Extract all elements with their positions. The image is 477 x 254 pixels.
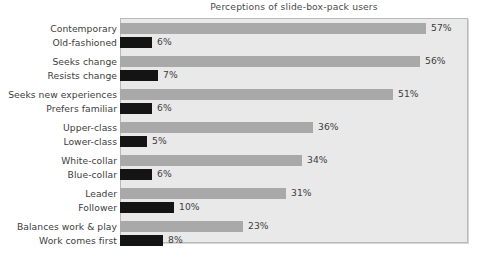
bar-value-label: 51% bbox=[398, 89, 419, 99]
bar-value-label: 10% bbox=[179, 202, 200, 212]
category-label: Lower-class bbox=[0, 136, 117, 147]
category-label: White-collar bbox=[0, 155, 117, 166]
category-label: Contemporary bbox=[0, 23, 117, 34]
bar-value-label: 8% bbox=[168, 235, 183, 245]
bar-positive bbox=[120, 221, 243, 232]
bar-value-label: 34% bbox=[307, 155, 328, 165]
category-label: Upper-class bbox=[0, 122, 117, 133]
category-label: Resists change bbox=[0, 70, 117, 81]
category-label: Work comes first bbox=[0, 235, 117, 246]
category-label: Old-fashioned bbox=[0, 37, 117, 48]
chart-title: Perceptions of slide-box-pack users bbox=[120, 1, 468, 12]
bar-positive bbox=[120, 89, 393, 100]
bar-negative bbox=[120, 103, 152, 114]
bar-positive bbox=[120, 56, 420, 67]
category-label-column: ContemporaryOld-fashionedSeeks changeRes… bbox=[0, 18, 117, 243]
bar-value-label: 6% bbox=[157, 169, 172, 179]
bar-chart: Perceptions of slide-box-pack users Cont… bbox=[0, 0, 477, 254]
category-label: Balances work & play bbox=[0, 221, 117, 232]
bar-value-label: 23% bbox=[248, 221, 269, 231]
category-label: Prefers familiar bbox=[0, 103, 117, 114]
category-label: Follower bbox=[0, 202, 117, 213]
bar-value-label: 56% bbox=[425, 56, 446, 66]
bar-positive bbox=[120, 155, 302, 166]
bar-value-label: 6% bbox=[157, 103, 172, 113]
bar-value-label: 6% bbox=[157, 37, 172, 47]
bar-value-label: 7% bbox=[163, 70, 178, 80]
bar-negative bbox=[120, 202, 174, 213]
category-label: Seeks change bbox=[0, 56, 117, 67]
bar-positive bbox=[120, 23, 426, 34]
bar-value-label: 36% bbox=[318, 122, 339, 132]
bar-value-label: 57% bbox=[431, 23, 452, 33]
bar-positive bbox=[120, 188, 286, 199]
bar-negative bbox=[120, 70, 158, 81]
bar-negative bbox=[120, 169, 152, 180]
bar-negative bbox=[120, 235, 163, 246]
bar-value-label: 31% bbox=[291, 188, 312, 198]
category-label: Leader bbox=[0, 188, 117, 199]
category-label: Seeks new experiences bbox=[0, 89, 117, 100]
bar-value-label: 5% bbox=[152, 136, 167, 146]
bar-negative bbox=[120, 136, 147, 147]
category-label: Blue-collar bbox=[0, 169, 117, 180]
bar-positive bbox=[120, 122, 313, 133]
bar-negative bbox=[120, 37, 152, 48]
